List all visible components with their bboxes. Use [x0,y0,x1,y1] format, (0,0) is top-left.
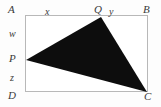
label-corner-d: D [8,90,16,101]
figure-canvas [0,0,161,107]
label-corner-c: C [144,91,151,102]
label-corner-b: B [143,4,150,15]
label-segment-z: z [10,72,14,83]
label-corner-a: A [8,4,15,15]
label-segment-x: x [45,6,49,17]
label-segment-y: y [109,6,113,17]
label-point-q: Q [94,4,102,15]
label-segment-w: w [9,28,16,39]
label-point-p: P [9,53,16,64]
geometry-diagram-screenshot: A x Q y B w P z D C [0,0,161,107]
